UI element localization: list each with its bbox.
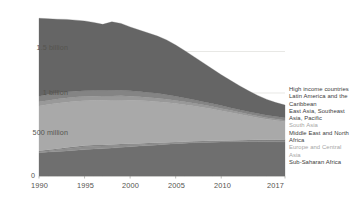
legend-item-europe-central-asia: Europe and Central Asia xyxy=(289,144,351,159)
y-axis-tick-500-million: 500 million xyxy=(2,129,68,136)
legend-item-latin-america-caribbean: Latin America and the Caribbean xyxy=(289,93,351,108)
chart-legend: High income countries Latin America and … xyxy=(289,86,351,166)
x-axis-tick-1990: 1990 xyxy=(31,182,48,189)
x-axis-tick-1995: 1995 xyxy=(77,182,94,189)
legend-item-south-asia: South Asia xyxy=(289,122,351,129)
y-axis-tick-1-5-billion: 1.5 billion xyxy=(2,44,68,51)
x-axis-tick-2005: 2005 xyxy=(168,182,185,189)
x-axis-tick-2010: 2010 xyxy=(214,182,231,189)
legend-item-high-income-countries: High income countries xyxy=(289,86,351,93)
y-axis-tick-1-billion: 1 billion xyxy=(2,89,68,96)
legend-item-east-asia-southeast-asia-pacific: East Asia, Southeast Asia, Pacific xyxy=(289,108,351,123)
x-axis-tick-2017: 2017 xyxy=(267,182,284,189)
y-axis-tick-zero: 0 xyxy=(31,172,35,179)
x-axis-tick-2000: 2000 xyxy=(122,182,139,189)
legend-item-middle-east-north-africa: Middle East and North Africa xyxy=(289,130,351,145)
poverty-stacked-area-chart: 1.5 billion 1 billion 500 million 0 1990… xyxy=(0,0,352,202)
legend-item-sub-saharan-africa: Sub-Saharan Africa xyxy=(289,159,351,166)
